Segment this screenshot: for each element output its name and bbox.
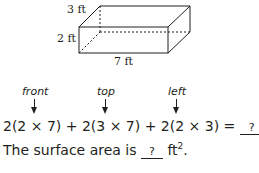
sentence-suffix: .	[183, 142, 187, 158]
equation-answer-blank: ?	[240, 122, 259, 135]
label-front: front	[22, 85, 48, 98]
arrowhead-left-icon	[173, 107, 179, 114]
surface-area-equation: 2(2 × 7) + 2(3 × 7) + 2(2 × 3) = ?	[3, 118, 259, 135]
arrowhead-top-icon	[102, 107, 108, 114]
rectangular-prism-figure: 3 ft 2 ft 7 ft	[0, 0, 259, 75]
sentence-prefix: The surface area is	[3, 142, 141, 158]
dimension-label-3ft: 3 ft	[67, 3, 86, 16]
surface-area-sentence: The surface area is ? ft2.	[3, 141, 188, 159]
equation-expression: 2(2 × 7) + 2(3 × 7) + 2(2 × 3) =	[3, 118, 240, 134]
sentence-answer-blank: ?	[141, 146, 163, 159]
dimension-label-2ft: 2 ft	[57, 32, 76, 45]
label-left: left	[168, 85, 186, 98]
arrowhead-front-icon	[31, 107, 37, 114]
sentence-unit: ft	[163, 142, 178, 158]
dimension-label-7ft: 7 ft	[114, 55, 133, 68]
label-top: top	[97, 85, 115, 98]
